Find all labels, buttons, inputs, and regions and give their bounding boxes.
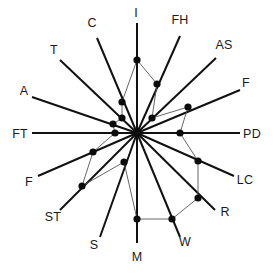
data-point-i [133, 56, 140, 63]
data-point-as [148, 114, 155, 121]
axis-label-i: I [134, 6, 138, 20]
axis-label-r: R [220, 205, 229, 219]
axis-label-m: M [132, 250, 143, 264]
axis-label-ft: FT [12, 127, 28, 141]
axis-label-f: F [242, 76, 250, 90]
data-point-c [118, 98, 125, 105]
axis-label-as: AS [215, 38, 232, 52]
axis-label-a: A [20, 84, 29, 98]
data-point-s [120, 158, 127, 165]
data-point-pd [176, 129, 183, 136]
axis-label-w: W [179, 235, 191, 249]
axis-label-lc: LC [237, 173, 253, 187]
data-point-lc [194, 157, 201, 164]
chart-center-hub [133, 129, 141, 137]
axis-label-fh: FH [171, 13, 188, 27]
data-point-f2 [89, 148, 96, 155]
data-point-fh [153, 80, 160, 87]
data-point-w [168, 215, 175, 222]
axis-label-st: ST [45, 210, 62, 224]
radar-chart-svg: IFHASFPDLCRWMSSTFFTATC [0, 0, 275, 278]
axis-label-f2: F [25, 175, 33, 189]
radar-chart-figure: IFHASFPDLCRWMSSTFFTATC [0, 0, 275, 278]
axis-label-t: T [50, 43, 58, 57]
data-point-a [109, 120, 116, 127]
data-point-t [118, 114, 125, 121]
data-point-r [194, 194, 201, 201]
axis-label-pd: PD [243, 127, 261, 141]
axis-label-c: C [87, 16, 96, 30]
data-point-m [133, 215, 140, 222]
axis-label-s: S [90, 238, 99, 252]
data-point-f [184, 103, 191, 110]
data-point-ft [111, 129, 118, 136]
data-point-st [78, 182, 85, 189]
